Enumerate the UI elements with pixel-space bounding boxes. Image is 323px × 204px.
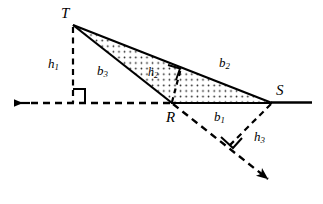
segment-label-b1-sub: 1: [221, 115, 225, 125]
right-angle-marker-h1: [73, 89, 85, 103]
altitude-label-h2: h2: [148, 66, 158, 78]
altitude-label-h3-base: h: [254, 129, 261, 144]
segment-label-b1: b1: [214, 110, 225, 123]
altitude-label-h3: h3: [254, 130, 265, 143]
vertex-label-S: S: [276, 83, 284, 98]
vertex-label-R: R: [166, 110, 175, 125]
altitude-label-h3-sub: 3: [261, 135, 265, 145]
geometry-figure: T R S b1 b2 b3 h1 h2 h3: [0, 0, 323, 204]
segment-label-b3: b3: [97, 64, 108, 77]
figure-canvas: [0, 0, 323, 204]
altitude-label-h1: h1: [48, 57, 59, 70]
segment-label-b2: b2: [219, 56, 230, 69]
segment-label-b2-base: b: [219, 55, 226, 70]
altitude-label-h2-sub: 2: [154, 71, 158, 80]
segment-label-b2-sub: 2: [226, 61, 230, 71]
segment-label-b3-sub: 3: [104, 69, 108, 79]
vertex-label-T: T: [61, 6, 69, 21]
altitude-label-h1-base: h: [48, 56, 55, 71]
altitude-label-h1-sub: 1: [55, 62, 59, 72]
segment-label-b1-base: b: [214, 109, 221, 124]
segment-label-b3-base: b: [97, 63, 104, 78]
